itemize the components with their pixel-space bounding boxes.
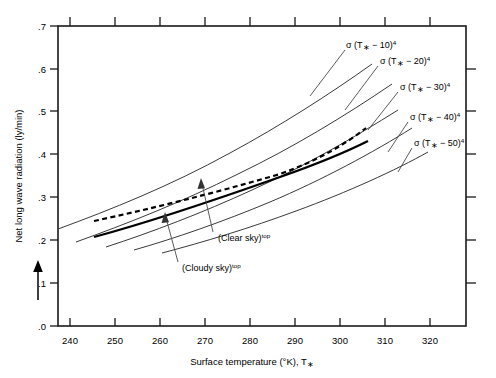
plot-frame xyxy=(58,26,466,326)
x-axis-title: Surface temperature (°K), T∗ xyxy=(190,356,314,369)
y-axis-title: Net long wave radiation (ly/min) xyxy=(13,109,24,242)
y-tick-label-6: .6 xyxy=(38,64,46,75)
sigma-T-minus-50-label: σ (T∗ − 50)4 xyxy=(414,137,465,150)
y-tick-label-3: .3 xyxy=(38,192,46,203)
y-tick-label-7: .7 xyxy=(38,21,46,32)
x-axis-ticks-bottom xyxy=(70,318,430,326)
x-tick-label-240: 240 xyxy=(62,335,78,346)
y-tick-label-0: .0 xyxy=(38,321,46,332)
sigma-T-minus-40-label: σ (T∗ − 40)4 xyxy=(410,111,461,124)
x-tick-label-290: 290 xyxy=(287,335,303,346)
x-tick-label-260: 260 xyxy=(152,335,168,346)
clear-sky-annotation: (Clear sky)top xyxy=(218,232,271,243)
y-axis-ticks-left xyxy=(50,26,58,326)
sigma-T-minus-10-label: σ (T∗ − 10)4 xyxy=(346,39,397,52)
sigma-T-minus-20-label: σ (T∗ − 20)4 xyxy=(380,55,431,68)
x-axis-ticks-top xyxy=(70,17,430,26)
y-tick-label-2: .2 xyxy=(38,235,46,246)
cloudy-sky-annotation: (Cloudy sky)top xyxy=(182,262,241,273)
curve-clear-sky xyxy=(94,128,366,221)
curve-sigma-T-minus-10 xyxy=(58,64,372,229)
x-tick-label-250: 250 xyxy=(107,335,123,346)
x-tick-label-270: 270 xyxy=(197,335,213,346)
curve-sigma-T-minus-20 xyxy=(76,84,392,242)
figure-root: .0 .1 .2 .3 .4 .5 .6 .7 240 250 260 270 … xyxy=(0,0,496,378)
x-tick-label-300: 300 xyxy=(332,335,348,346)
y-tick-label-4: .4 xyxy=(38,149,46,160)
y-axis-ticks-right xyxy=(466,69,476,283)
sigma-T-minus-30-label: σ (T∗ − 30)4 xyxy=(400,81,451,94)
x-tick-label-320: 320 xyxy=(422,335,438,346)
x-tick-label-310: 310 xyxy=(377,335,393,346)
curve-sigma-T-minus-50 xyxy=(162,152,428,253)
curve-sigma-T-minus-40 xyxy=(134,128,412,250)
y-tick-label-1: .1 xyxy=(38,278,46,289)
curve-cloudy-sky xyxy=(94,141,368,237)
long-wave-radiation-chart: .0 .1 .2 .3 .4 .5 .6 .7 240 250 260 270 … xyxy=(0,0,496,378)
y-tick-label-5: .5 xyxy=(38,106,46,117)
x-tick-label-280: 280 xyxy=(242,335,258,346)
